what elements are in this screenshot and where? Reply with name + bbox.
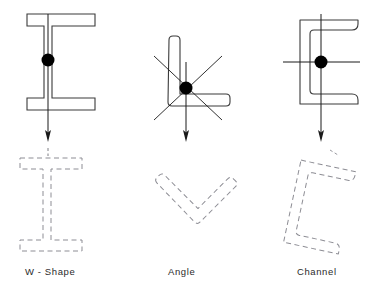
w-shape-solid-outline — [27, 14, 95, 110]
w-shape-dashed-outline — [20, 158, 82, 251]
angle-centroid-dot — [180, 82, 193, 95]
angle-solid-outline — [168, 36, 230, 106]
angle-dashed-group — [153, 140, 238, 225]
channel-dashed-axis-stub — [330, 150, 338, 155]
panel-w-shape — [20, 14, 95, 251]
panel-channel — [283, 14, 360, 254]
channel-centroid-dot — [315, 56, 328, 69]
caption-angle: Angle — [168, 266, 195, 277]
channel-dashed-outline — [284, 160, 356, 254]
caption-w-shape: W - Shape — [25, 266, 75, 277]
channel-dashed-group — [284, 160, 356, 254]
angle-dashed-outline — [153, 140, 238, 225]
panel-angle — [153, 36, 238, 225]
structural-shapes-figure — [0, 0, 370, 296]
caption-channel: Channel — [297, 266, 337, 277]
w-shape-centroid-dot — [42, 54, 55, 67]
figure-page: W - Shape Angle Channel — [0, 0, 370, 296]
